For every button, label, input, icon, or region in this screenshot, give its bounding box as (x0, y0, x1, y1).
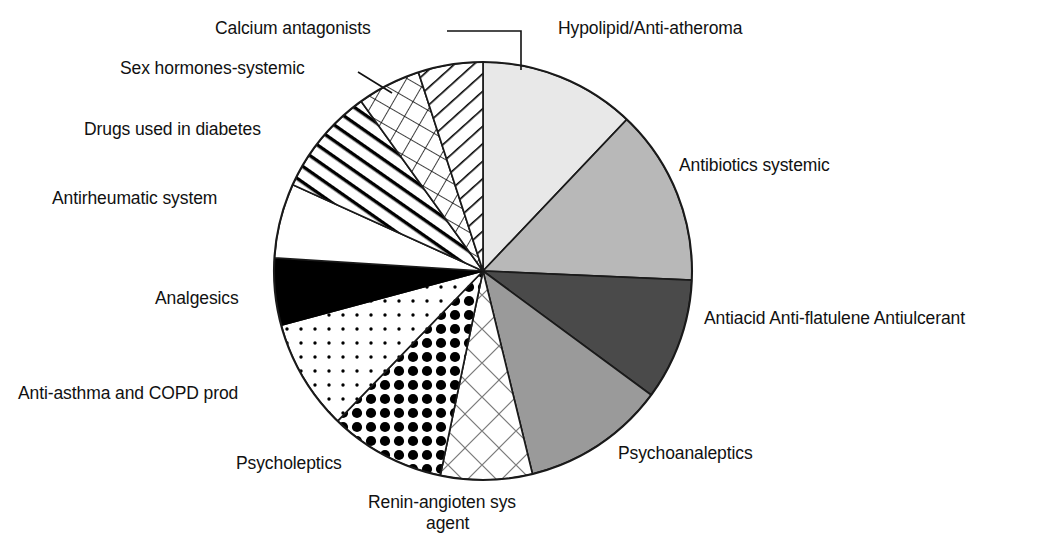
pie-label-psychoanaleptics: Psychoanaleptics (618, 443, 753, 464)
pie-label-renin-angioten-sys: Renin-angioten sys (368, 492, 516, 513)
pie-label-psycholeptics: Psycholeptics (236, 453, 342, 474)
pie-label-sex-hormones-systemic: Sex hormones-systemic (120, 58, 305, 79)
pie-chart-figure (0, 0, 1048, 552)
leader-line-sex-hormones (358, 72, 392, 93)
pie-slices-group (274, 62, 692, 480)
pie-label-calcium-antagonists: Calcium antagonists (215, 18, 371, 39)
pie-label-hypolipid-anti-atheroma: Hypolipid/Anti-atheroma (558, 18, 742, 39)
pie-label-antiacid-anti-flatulene-antiulcerant: Antiacid Anti-flatulene Antiulcerant (704, 308, 965, 329)
pie-label-agent: agent (426, 513, 469, 534)
pie-label-antibiotics-systemic: Antibiotics systemic (679, 155, 830, 176)
pie-label-anti-asthma-and-copd-prod: Anti-asthma and COPD prod (18, 383, 238, 404)
pie-label-antirheumatic-system: Antirheumatic system (52, 188, 217, 209)
pie-label-drugs-used-in-diabetes: Drugs used in diabetes (84, 119, 261, 140)
pie-label-analgesics: Analgesics (155, 288, 239, 309)
